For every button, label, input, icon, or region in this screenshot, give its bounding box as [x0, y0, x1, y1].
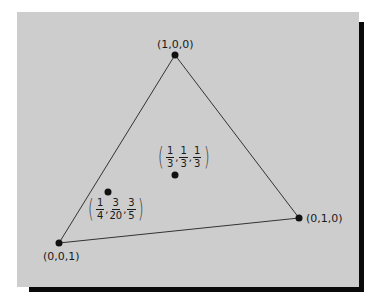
close-paren: )	[204, 145, 210, 169]
fraction: 35	[127, 198, 135, 221]
vertex-label-right: (0,1,0)	[306, 213, 343, 224]
vertex-label-left: (0,0,1)	[43, 251, 80, 262]
vertex-label-top: (1,0,0)	[157, 39, 194, 50]
fraction: 14	[96, 198, 104, 221]
vertex-point-left	[56, 240, 63, 247]
close-paren: )	[138, 197, 144, 221]
open-paren: (	[88, 197, 94, 221]
point-b-label: ( 14 , 320 , 35 )	[86, 197, 146, 221]
open-paren: (	[158, 145, 164, 169]
vertex-point-right	[296, 215, 303, 222]
fraction: 13	[179, 146, 187, 169]
fraction: 320	[109, 198, 122, 221]
centroid-label: ( 13 , 13 , 13 )	[156, 145, 211, 169]
fraction: 13	[166, 146, 174, 169]
centroid-point	[172, 172, 179, 179]
fraction: 13	[193, 146, 201, 169]
interior-point-b	[105, 189, 112, 196]
vertex-point-top	[172, 52, 179, 59]
